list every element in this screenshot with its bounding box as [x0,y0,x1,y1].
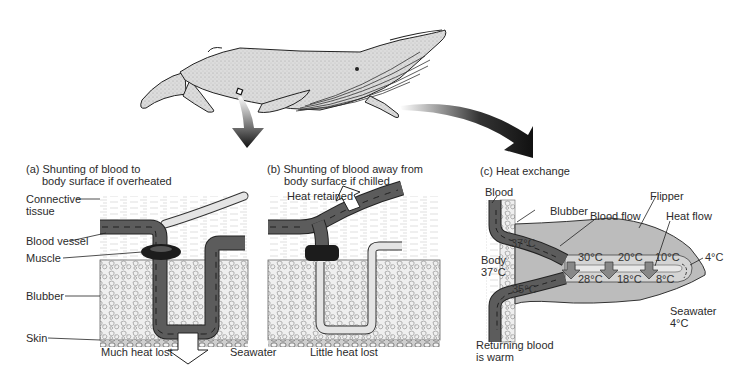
label-skin: Skin [26,332,47,344]
label-blubber-c: Blubber [550,205,588,217]
caption-little-heat-lost: Little heat lost [310,346,378,358]
whale-illustration [141,30,446,118]
panel-c-title: (c) Heat exchange [480,165,570,177]
temp-out-10: 10°C [655,251,680,263]
label-heat-flow: Heat flow [666,210,712,222]
label-seawater-c: Seawater [670,305,716,317]
label-is-warm: is warm [476,351,514,363]
label-seawater-ab: Seawater [230,346,276,358]
panel-b-illustration [268,186,440,347]
caption-much-heat-lost: Much heat lost [101,346,173,358]
label-blood-flow: Blood flow [590,210,641,222]
label-body: Body [481,254,506,266]
temp-vein-exit: 35°C [512,283,537,295]
temp-artery-entry: 37°C [511,237,536,249]
label-muscle: Muscle [26,252,61,264]
temp-out-20: 20°C [618,251,643,263]
panel-a-title-line1: (a) Shunting of blood to [26,163,140,175]
temp-out-30: 30°C [578,251,603,263]
panel-a-title-line2: body surface if overheated [42,175,172,187]
pointer-arrow-curved [400,104,533,158]
label-returning-blood: Returning blood [476,339,554,351]
label-body-temp: 37°C [481,266,506,278]
panel-b-title-line2: body surface if chilled [284,175,390,187]
temp-back-28: 28°C [578,273,603,285]
temp-back-18: 18°C [617,273,642,285]
temp-back-8: 8°C [656,273,674,285]
label-blood-vessel: Blood vessel [26,235,88,247]
temp-tip-4: 4°C [705,251,723,263]
label-connective-tissue-1: Connective [26,193,81,205]
label-flipper: Flipper [650,190,684,202]
label-connective-tissue-2: tissue [26,205,55,217]
label-seawater-temp: 4°C [670,317,688,329]
label-blubber: Blubber [26,290,64,302]
label-blood: Blood [485,186,513,198]
panel-a-illustration [48,196,248,364]
label-heat-retained: Heat retained [287,190,353,202]
panel-b-title-line1: (b) Shunting of blood away from [267,163,423,175]
